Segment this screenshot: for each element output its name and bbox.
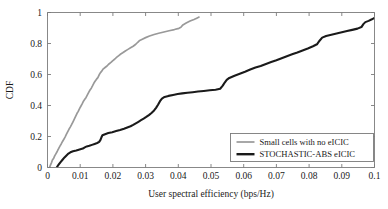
y-tick-label: 0 (37, 163, 42, 173)
x-tick-label: 0.03 (137, 171, 154, 181)
cdf-chart-figure: 00.010.020.030.040.050.060.070.080.090.1… (0, 0, 388, 209)
series-line-0 (49, 17, 199, 168)
x-tick-label: 0 (45, 171, 50, 181)
x-tick-label: 0.06 (235, 171, 252, 181)
x-tick-label: 0.1 (369, 171, 381, 181)
x-axis-title: User spectral efficiency (bps/Hz) (148, 189, 274, 200)
y-axis-title: CDF (5, 81, 15, 99)
chart-legend[interactable]: Small cells with no eICICSTOCHASTIC-ABS … (231, 134, 374, 162)
x-tick-label: 0.04 (170, 171, 187, 181)
x-tick-label: 0.02 (105, 171, 122, 181)
legend-label-0: Small cells with no eICIC (260, 137, 350, 147)
legend-label-1: STOCHASTIC-ABS eICIC (260, 149, 356, 159)
y-tick-label: 0.2 (30, 132, 42, 142)
x-tick-label: 0.07 (268, 171, 285, 181)
chart-canvas: 00.010.020.030.040.050.060.070.080.090.1… (0, 0, 388, 209)
x-tick-label: 0.01 (72, 171, 89, 181)
x-tick-label: 0.08 (301, 171, 318, 181)
y-tick-label: 1 (37, 8, 42, 18)
y-tick-label: 0.6 (30, 70, 42, 80)
x-tick-label: 0.05 (203, 171, 220, 181)
y-tick-label: 0.8 (30, 39, 42, 49)
x-tick-label: 0.09 (333, 171, 350, 181)
y-tick-label: 0.4 (30, 101, 42, 111)
